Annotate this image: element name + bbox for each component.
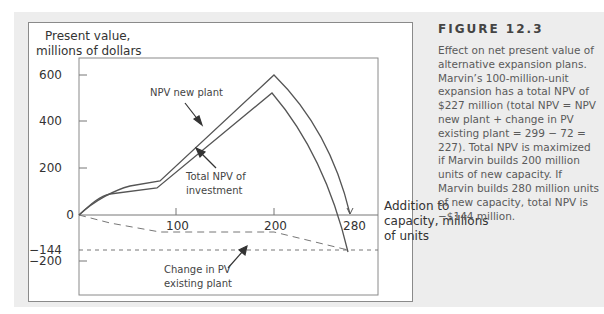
figure-caption: Effect on net present value of alternati…	[438, 44, 600, 223]
y-ticks	[79, 75, 87, 261]
annotation-total-npv-line1: Total NPV of	[186, 170, 246, 184]
figure-caption-block: FIGURE 12.3 Effect on net present value …	[438, 22, 600, 223]
annotation-change-pv-line1: Change in PV	[164, 263, 232, 277]
annotation-change-pv-line2: existing plant	[164, 277, 232, 291]
x-ticks	[176, 208, 274, 215]
y-axis-label-line1: Present value,	[36, 29, 176, 44]
annotation-total-npv: Total NPV of investment	[186, 170, 246, 198]
annotation-npv-new-plant: NPV new plant	[150, 86, 223, 100]
x-tick-100: 100	[166, 219, 189, 233]
y-axis-label-line2: millions of dollars	[36, 44, 142, 58]
y-tick-minus-200: −200	[22, 254, 62, 268]
y-tick-600: 600	[22, 68, 62, 82]
annotation-change-pv: Change in PV existing plant	[164, 263, 232, 291]
y-tick-200: 200	[22, 161, 62, 175]
y-tick-0: 0	[26, 208, 74, 222]
x-tick-200: 200	[264, 219, 287, 233]
x-tick-280: 280	[343, 219, 366, 233]
x-axis-label-line3: of units	[384, 229, 504, 244]
y-axis-label: Present value, millions of dollars	[36, 29, 176, 59]
annotation-total-npv-line2: investment	[186, 184, 246, 198]
y-tick-400: 400	[22, 114, 62, 128]
series-change-pv-existing-plant	[79, 215, 348, 250]
arrowhead-npv-new-plant-end	[347, 208, 353, 214]
figure-label: FIGURE 12.3	[438, 22, 600, 36]
